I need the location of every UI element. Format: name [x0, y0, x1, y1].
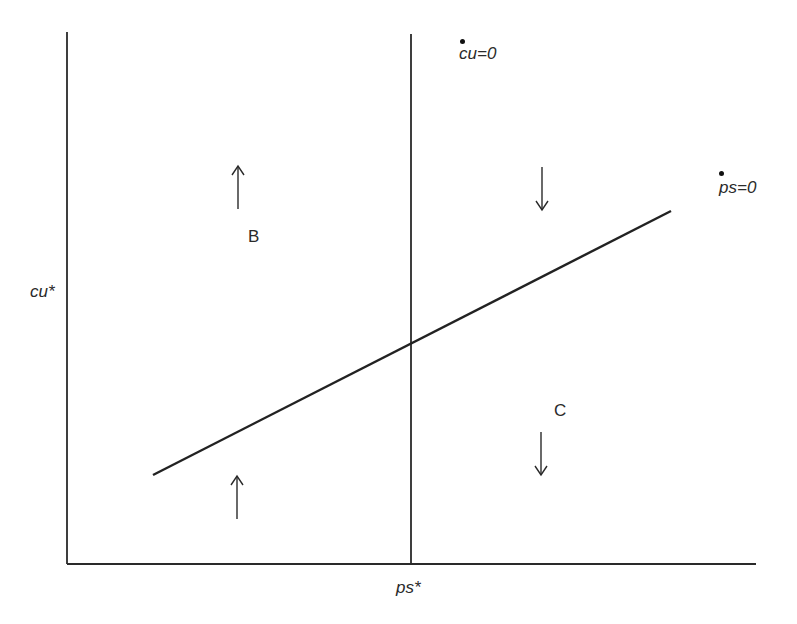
y-axis-label: cu* — [30, 282, 55, 302]
cu-zero-text: cu=0 — [459, 44, 496, 63]
region-c-label: C — [554, 401, 566, 421]
ps-zero-label: ps=0 — [719, 178, 756, 198]
region-b-label: B — [248, 227, 259, 247]
arrow-up-icon — [232, 166, 244, 209]
arrow-up-icon — [231, 476, 243, 519]
x-axis-label: ps* — [396, 578, 421, 598]
arrow-down-icon — [535, 432, 547, 475]
cu-zero-label: cu=0 — [459, 44, 496, 64]
arrow-down-icon — [536, 167, 548, 210]
phase-diagram-canvas — [0, 0, 797, 624]
ps-zero-text: ps=0 — [719, 178, 756, 197]
time-derivative-dot-icon — [719, 171, 724, 176]
ps-dot-zero-line — [153, 211, 671, 475]
